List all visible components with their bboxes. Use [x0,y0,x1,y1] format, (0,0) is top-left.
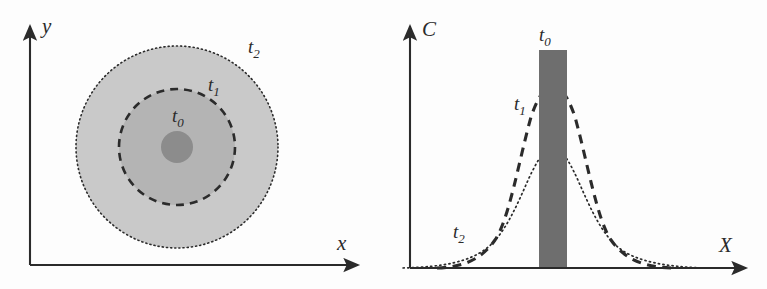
x-axis-label: X [718,233,733,257]
y-axis-label: y [40,14,52,38]
pulse-bar-t0 [539,50,567,268]
label-t2-sub: 2 [458,231,465,246]
label-t2: t2 [248,36,260,61]
label-t2-sub: 2 [253,46,260,61]
plume-circle-t0 [161,131,193,163]
label-t1-sub: 1 [213,84,220,99]
figure-container: y x t0 t1 t2 [0,0,767,289]
label-t0-sub: 0 [544,34,551,49]
panel-plan-view: y x t0 t1 t2 [0,0,383,289]
label-t0-sub: 0 [177,115,184,130]
label-t1: t1 [514,93,526,118]
label-t1-sub: 1 [519,103,526,118]
panel-concentration-profile: C X t0 t1 t2 [383,0,767,289]
label-t0: t0 [539,24,551,49]
x-axis-label: x [336,231,347,255]
label-t2: t2 [453,221,465,246]
c-axis-label: C [422,17,437,41]
